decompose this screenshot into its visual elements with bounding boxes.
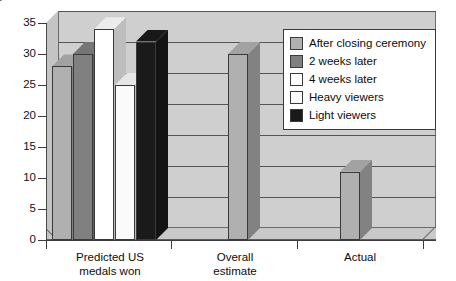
x-axis-tick (423, 240, 424, 249)
legend-item[interactable]: 4 weeks later (290, 71, 429, 88)
bar[interactable] (340, 160, 360, 240)
chart-legend: After closing ceremony 2 weeks later 4 w… (283, 29, 436, 130)
bar-front-face (52, 66, 72, 240)
y-axis-tick (38, 178, 47, 179)
bar-chart: 05101520253035 Predicted USmedals wonOve… (0, 0, 456, 281)
legend-item-label: 4 weeks later (309, 73, 377, 86)
legend-item[interactable]: 2 weeks later (290, 53, 429, 70)
x-axis-category-label-line: Predicted US (48, 251, 172, 265)
x-axis-category-label: Predicted USmedals won (48, 251, 172, 278)
y-axis-tick (38, 209, 47, 210)
x-axis-category-label: Overallestimate (175, 251, 295, 278)
x-axis-category-label-line: Actual (300, 251, 420, 265)
y-axis-tick (38, 147, 47, 148)
y-axis-tick-label: 35 (0, 17, 36, 28)
bar-top (115, 73, 135, 85)
legend-item-label: 2 weeks later (309, 55, 377, 68)
y-axis-tick-label: 15 (0, 141, 36, 152)
legend-swatch-icon (290, 109, 303, 122)
y-axis-tick (38, 23, 47, 24)
x-axis-tick (297, 240, 298, 249)
y-axis-tick-label: 30 (0, 48, 36, 59)
x-axis-category-label-line: Overall (175, 251, 295, 265)
legend-item-label: After closing ceremony (309, 37, 426, 50)
bar-front-face (94, 29, 114, 240)
legend-item-label: Heavy viewers (309, 91, 384, 104)
bar-side-face (360, 160, 372, 240)
bar-front-face (228, 54, 248, 240)
x-axis-line (46, 240, 436, 241)
bar[interactable] (228, 42, 248, 240)
bar-front-face (115, 85, 135, 240)
bar-top (340, 160, 360, 172)
y-axis-tick (38, 54, 47, 55)
y-axis-tick (38, 116, 47, 117)
bar-front-face (73, 54, 93, 240)
y-axis-tick-label: 25 (0, 79, 36, 90)
bar-top (94, 17, 114, 29)
legend-swatch-icon (290, 91, 303, 104)
legend-item[interactable]: Light viewers (290, 107, 429, 124)
y-axis-tick (38, 85, 47, 86)
x-axis-tick (46, 240, 47, 249)
x-axis-category-label-line: estimate (175, 265, 295, 279)
legend-swatch-icon (290, 55, 303, 68)
legend-swatch-icon (290, 37, 303, 50)
y-axis-tick-label: 10 (0, 172, 36, 183)
y-axis-tick-label: 0 (0, 234, 36, 245)
gridlines (0, 0, 456, 7)
bar-top (52, 54, 72, 66)
bar-top (136, 30, 156, 42)
gridline (58, 11, 436, 12)
bar[interactable] (136, 30, 156, 240)
bar-front-face (340, 172, 360, 240)
bar-top (228, 42, 248, 54)
legend-item[interactable]: Heavy viewers (290, 89, 429, 106)
bar-side-face (248, 42, 260, 240)
bar-side-face (156, 30, 168, 240)
x-axis-tick (171, 240, 172, 249)
x-axis-category-label: Actual (300, 251, 420, 265)
legend-swatch-icon (290, 73, 303, 86)
bar[interactable] (115, 73, 135, 240)
legend-item[interactable]: After closing ceremony (290, 35, 429, 52)
bar-front-face (136, 42, 156, 240)
legend-item-label: Light viewers (309, 109, 376, 122)
bar[interactable] (73, 42, 93, 240)
y-axis-tick-label: 20 (0, 110, 36, 121)
bar[interactable] (52, 54, 72, 240)
y-axis-tick-label: 5 (0, 203, 36, 214)
bar-top (73, 42, 93, 54)
x-axis-category-label-line: medals won (48, 265, 172, 279)
bar[interactable] (94, 17, 114, 240)
gridline-depth-edge (0, 6, 13, 7)
